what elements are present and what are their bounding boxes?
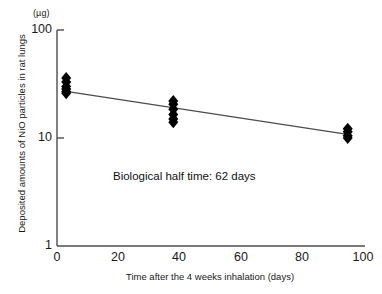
data-markers [61, 72, 353, 144]
regression-line [66, 91, 351, 134]
axis-lines [57, 30, 365, 246]
plot-area [0, 0, 382, 294]
chart-figure: (µg) Deposited amounts of NiO particles … [0, 0, 382, 294]
chart-annotation: Biological half time: 62 days [113, 170, 256, 182]
fit-line [66, 91, 351, 134]
